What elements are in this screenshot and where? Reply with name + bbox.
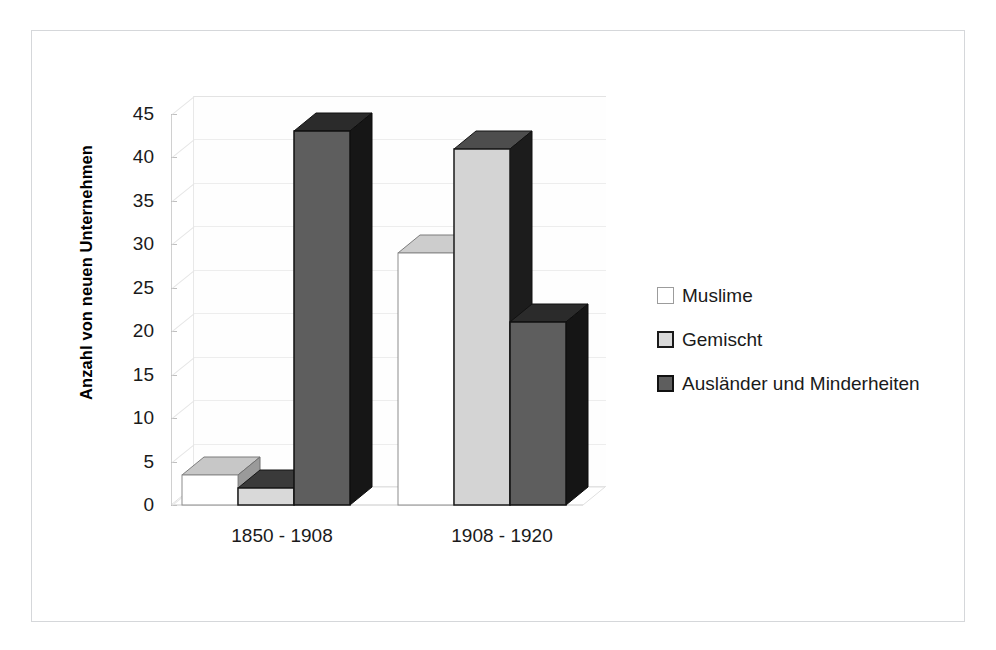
legend-item-muslime: Muslime <box>657 273 962 317</box>
plot-area: 45 40 35 30 25 20 15 10 5 0 <box>32 31 966 623</box>
legend-item-gemischt: Gemischt <box>657 317 962 361</box>
y-tick-label-10: 10 <box>110 408 154 427</box>
y-tick-label-40: 40 <box>110 147 154 166</box>
chart-legend: Muslime Gemischt Ausländer und Minderhei… <box>657 273 962 405</box>
legend-label-muslime: Muslime <box>682 286 753 305</box>
y-tick-label-45: 45 <box>110 104 154 123</box>
y-tick-label-35: 35 <box>110 191 154 210</box>
chart-frame: 45 40 35 30 25 20 15 10 5 0 <box>31 30 965 622</box>
bar-auslaender-1850-1908 <box>294 31 372 505</box>
y-tick-label-30: 30 <box>110 234 154 253</box>
legend-swatch-icon-auslaender <box>657 375 674 392</box>
value-axis-line <box>171 114 172 505</box>
legend-item-auslaender: Ausländer und Minderheiten <box>657 361 962 405</box>
y-tick-label-5: 5 <box>110 452 154 471</box>
legend-label-auslaender: Ausländer und Minderheiten <box>682 374 920 393</box>
y-tick-label-0: 0 <box>110 495 154 514</box>
y-tick-label-15: 15 <box>110 365 154 384</box>
y-tick-label-25: 25 <box>110 278 154 297</box>
legend-swatch-icon-muslime <box>657 287 674 304</box>
category-label-1908-1920: 1908 - 1920 <box>392 525 612 547</box>
bar-auslaender-1908-1920 <box>510 31 588 505</box>
legend-swatch-icon-gemischt <box>657 331 674 348</box>
y-axis-title: Anzahl von neuen Unternehmen <box>77 143 96 403</box>
y-tick-label-20: 20 <box>110 321 154 340</box>
chart-image: 45 40 35 30 25 20 15 10 5 0 <box>0 0 996 650</box>
legend-label-gemischt: Gemischt <box>682 330 762 349</box>
category-label-1850-1908: 1850 - 1908 <box>172 525 392 547</box>
